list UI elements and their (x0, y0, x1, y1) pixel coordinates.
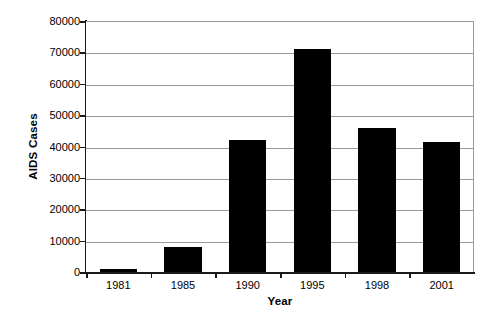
gridline (86, 148, 473, 149)
y-axis-tick-label: 80000 (49, 16, 80, 27)
x-axis-tick-label: 1995 (300, 280, 324, 291)
bar (100, 269, 138, 272)
y-axis-tick-mark (80, 241, 86, 243)
bar (294, 49, 332, 272)
x-axis-title: Year (86, 295, 474, 307)
y-axis-tick-mark (80, 147, 86, 149)
gridline (86, 85, 473, 86)
y-axis-tick-mark (80, 209, 86, 211)
y-axis-tick-mark (80, 21, 86, 23)
y-axis-tick-mark (80, 52, 86, 54)
x-axis-tick-labels: 198119851990199519982001 (86, 280, 474, 296)
y-axis-tick-label: 10000 (49, 235, 80, 246)
gridline (86, 116, 473, 117)
y-axis-tick-label: 50000 (49, 110, 80, 121)
aids-cases-bar-chart: AIDS Cases 01000020000300004000050000600… (0, 0, 502, 315)
y-axis-tick-labels: 0100002000030000400005000060000700008000… (38, 21, 80, 272)
x-axis-tick-mark (409, 272, 411, 278)
x-axis-tick-mark (151, 272, 153, 278)
y-axis-tick-label: 70000 (49, 47, 80, 58)
bar (164, 247, 202, 272)
x-axis-tick-label: 1981 (106, 280, 130, 291)
x-axis-tick-label: 1985 (171, 280, 195, 291)
gridline (86, 210, 473, 211)
y-axis-tick-mark (80, 84, 86, 86)
gridline (86, 179, 473, 180)
x-axis-tick-mark (215, 272, 217, 278)
bar (358, 128, 396, 272)
x-axis-tick-mark (86, 272, 88, 278)
plot-area (86, 21, 474, 272)
x-axis-tick-mark (280, 272, 282, 278)
y-axis-tick-mark (80, 178, 86, 180)
gridline (86, 242, 473, 243)
y-axis-tick-label: 20000 (49, 204, 80, 215)
bar (423, 142, 461, 272)
y-axis-tick-label: 30000 (49, 172, 80, 183)
x-axis-tick-label: 1990 (235, 280, 259, 291)
y-axis-tick-mark (80, 115, 86, 117)
gridline (86, 53, 473, 54)
bar (229, 140, 267, 272)
y-axis-tick-label: 60000 (49, 78, 80, 89)
x-axis-tick-label: 2001 (429, 280, 453, 291)
y-axis-tick-label: 40000 (49, 141, 80, 152)
x-axis-tick-mark (345, 272, 347, 278)
x-axis-tick-label: 1998 (365, 280, 389, 291)
